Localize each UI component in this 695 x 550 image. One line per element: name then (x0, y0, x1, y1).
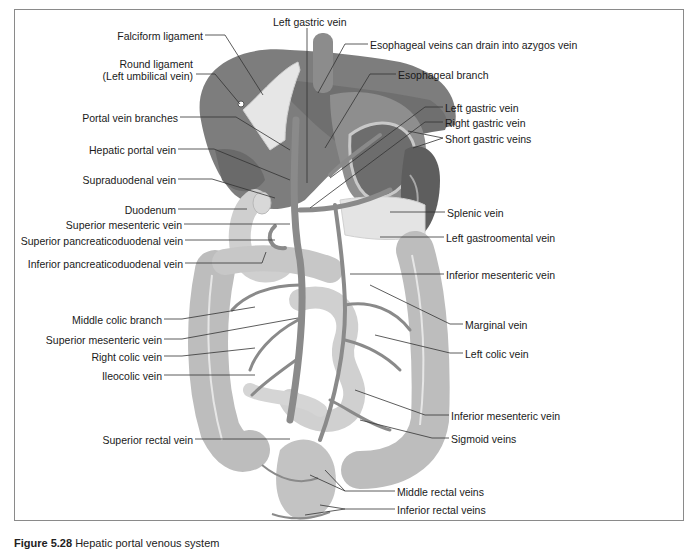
label-duodenum: Duodenum (125, 204, 176, 216)
label-inferior-pancreaticoduodenal-vein: Inferior pancreaticoduodenal vein (28, 258, 183, 270)
ascending-colon (208, 270, 250, 452)
label-ileocolic-vein: Ileocolic vein (102, 370, 162, 382)
portal-venous-system-illustration (0, 0, 695, 550)
label-middle-colic-branch: Middle colic branch (72, 314, 162, 326)
label-left-gastric-vein-top: Left gastric vein (273, 16, 347, 28)
label-right-gastric-vein: Right gastric vein (445, 117, 526, 129)
caption-number: Figure 5.28 (14, 537, 72, 549)
label-hepatic-portal-vein: Hepatic portal vein (89, 144, 176, 156)
label-superior-pancreaticoduodenal-vein: Superior pancreaticoduodenal vein (21, 235, 183, 247)
label-round-ligament-2: (Left umbilical vein) (103, 70, 193, 82)
label-inferior-rectal-veins: Inferior rectal veins (397, 504, 486, 516)
label-superior-mesenteric-vein-mid: Superior mesenteric vein (46, 334, 162, 346)
label-falciform-ligament: Falciform ligament (117, 30, 203, 42)
descending-colon (360, 250, 431, 470)
label-marginal-vein: Marginal vein (465, 319, 527, 331)
label-superior-rectal-vein: Superior rectal vein (103, 434, 193, 446)
round-ligament-dot (238, 101, 244, 107)
label-portal-vein-branches: Portal vein branches (82, 112, 178, 124)
label-middle-rectal-veins: Middle rectal veins (397, 486, 484, 498)
label-supraduodenal-vein: Supraduodenal vein (83, 174, 176, 186)
label-right-colic-vein: Right colic vein (91, 351, 162, 363)
label-short-gastric-veins: Short gastric veins (445, 133, 531, 145)
label-splenic-vein: Splenic vein (447, 207, 504, 219)
label-inferior-mesenteric-vein-top: Inferior mesenteric vein (446, 269, 555, 281)
label-inferior-mesenteric-vein-low: Inferior mesenteric vein (451, 410, 560, 422)
label-sigmoid-veins: Sigmoid veins (451, 433, 516, 445)
caption-text: Hepatic portal venous system (75, 537, 219, 549)
label-left-colic-vein: Left colic vein (465, 348, 529, 360)
label-esophageal-veins: Esophageal veins can drain into azygos v… (370, 39, 577, 51)
label-esophageal-branch: Esophageal branch (398, 69, 489, 81)
transverse-colon (225, 258, 330, 270)
label-superior-mesenteric-vein-top: Superior mesenteric vein (66, 219, 182, 231)
label-left-gastric-vein: Left gastric vein (445, 102, 519, 114)
label-left-gastroomental-vein: Left gastroomental vein (446, 232, 555, 244)
rectum (276, 440, 336, 520)
label-round-ligament-1: Round ligament (119, 58, 193, 70)
figure-caption: Figure 5.28 Hepatic portal venous system (14, 537, 219, 549)
